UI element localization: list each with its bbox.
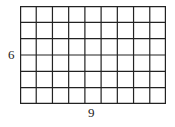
height-label: 6 — [8, 48, 15, 61]
width-label: 9 — [88, 106, 95, 119]
grid-rectangle — [20, 6, 166, 104]
